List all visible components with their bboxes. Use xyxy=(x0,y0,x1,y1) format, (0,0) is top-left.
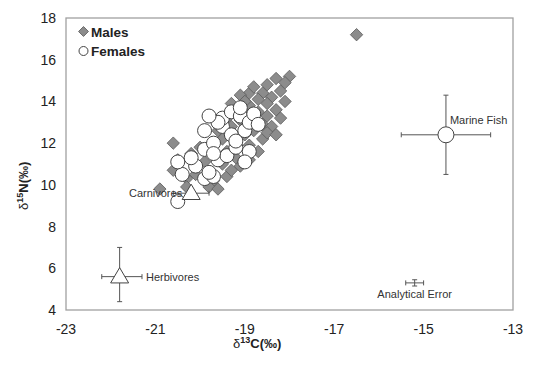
female-data-point xyxy=(207,147,221,161)
legend-label-males: Males xyxy=(91,25,129,40)
y-tick-label: 4 xyxy=(48,302,56,318)
reference-herbivores: Herbivores xyxy=(102,247,200,301)
y-title-sup: 15 xyxy=(15,193,25,203)
x-title-delta: δ xyxy=(233,336,240,351)
marine-fish-marker xyxy=(438,127,454,143)
circle-marker-icon xyxy=(79,47,88,56)
y-axis-title: δ15N(‰) xyxy=(15,162,31,210)
x-tick-label: -15 xyxy=(413,321,433,337)
male-data-point xyxy=(350,28,362,40)
y-tick-label: 16 xyxy=(40,52,56,68)
legend-item-females: Females xyxy=(79,44,145,59)
y-tick-label: 12 xyxy=(40,135,56,151)
chart-svg: 4681012141618 -23-21-19-17-15-13 Marine … xyxy=(0,0,534,367)
x-tick-label: -21 xyxy=(145,321,165,337)
scatter-chart: 4681012141618 -23-21-19-17-15-13 Marine … xyxy=(0,0,534,367)
x-title-suffix: C(‰) xyxy=(250,336,281,351)
female-data-point xyxy=(198,124,212,138)
y-tick-label: 6 xyxy=(48,260,56,276)
x-axis-ticks: -23-21-19-17-15-13 xyxy=(56,321,523,337)
y-axis-ticks: 4681012141618 xyxy=(40,10,56,318)
female-data-point xyxy=(171,155,185,169)
reference-analytical-error: Analytical Error xyxy=(377,280,452,300)
female-data-point xyxy=(233,101,247,115)
y-tick-label: 14 xyxy=(40,93,56,109)
y-title-suffix: N(‰) xyxy=(16,162,31,193)
y-title-delta: δ xyxy=(16,203,31,210)
annotation-label: Marine Fish xyxy=(450,114,507,126)
reference-marine-fish: Marine Fish xyxy=(401,95,507,174)
diamond-marker-icon xyxy=(79,27,89,37)
reference-carnivores: Carnivores xyxy=(129,184,209,199)
y-tick-label: 10 xyxy=(40,177,56,193)
x-tick-label: -17 xyxy=(324,321,344,337)
female-data-point xyxy=(238,155,252,169)
y-tick-label: 18 xyxy=(40,10,56,26)
female-data-point xyxy=(175,167,189,181)
x-title-sup: 13 xyxy=(240,335,250,345)
x-tick-label: -13 xyxy=(503,321,523,337)
triangle-marker xyxy=(111,268,129,283)
x-axis-title: δ13C(‰) xyxy=(233,335,281,351)
male-data-point xyxy=(167,137,179,149)
female-data-point xyxy=(251,117,265,131)
female-data-point xyxy=(184,151,198,165)
legend-item-males: Males xyxy=(79,25,129,40)
annotation-label: Carnivores xyxy=(129,187,183,199)
legend: Males Females xyxy=(79,25,145,59)
y-tick-label: 8 xyxy=(48,219,56,235)
legend-label-females: Females xyxy=(91,44,145,59)
female-data-point xyxy=(202,165,216,179)
annotation-label: Analytical Error xyxy=(377,288,452,300)
x-tick-label: -23 xyxy=(56,321,76,337)
reference-points: Marine FishCarnivoresHerbivoresAnalytica… xyxy=(102,95,508,301)
annotation-label: Herbivores xyxy=(146,271,200,283)
female-data-point xyxy=(202,109,216,123)
female-data-point xyxy=(229,134,243,148)
